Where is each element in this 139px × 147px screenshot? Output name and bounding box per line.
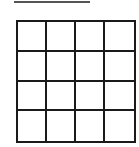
grid-cell[interactable] bbox=[18, 52, 47, 82]
grid-cell[interactable] bbox=[18, 82, 47, 112]
grid-cell[interactable] bbox=[76, 52, 105, 82]
grid-cell[interactable] bbox=[47, 22, 76, 52]
grid-cell[interactable] bbox=[47, 82, 76, 112]
grid-cell[interactable] bbox=[47, 111, 76, 141]
grid-cell[interactable] bbox=[18, 111, 47, 141]
grid-cell[interactable] bbox=[105, 111, 134, 141]
grid-cell[interactable] bbox=[76, 82, 105, 112]
answer-line bbox=[14, 1, 90, 3]
grid-cell[interactable] bbox=[105, 52, 134, 82]
grid-cell[interactable] bbox=[76, 111, 105, 141]
grid-cell[interactable] bbox=[76, 22, 105, 52]
grid-cell[interactable] bbox=[18, 22, 47, 52]
grid-4x4 bbox=[16, 20, 136, 143]
grid-cell[interactable] bbox=[105, 22, 134, 52]
grid-cell[interactable] bbox=[47, 52, 76, 82]
grid-cell[interactable] bbox=[105, 82, 134, 112]
